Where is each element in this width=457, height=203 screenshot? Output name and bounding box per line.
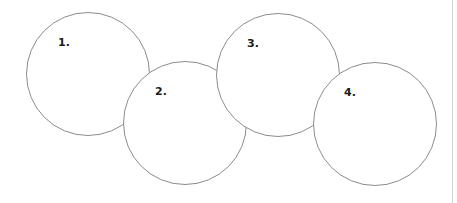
circle-2-label: 2. (155, 86, 167, 97)
circle-4 (313, 62, 437, 186)
circle-diagram: 1. 2. 3. 4. (0, 0, 457, 203)
circle-1-label: 1. (58, 37, 70, 48)
circle-4-label: 4. (344, 87, 356, 98)
right-border-rule (452, 0, 453, 203)
circle-3-label: 3. (247, 38, 259, 49)
